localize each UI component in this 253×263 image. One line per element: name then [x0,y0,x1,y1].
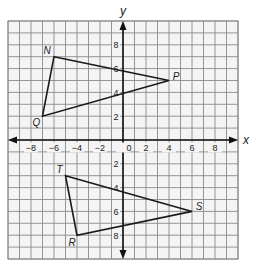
y-tick-label: 2 [113,159,118,169]
x-tick-label: 2 [143,143,148,153]
x-tick-label: −2 [95,143,105,153]
vertex-label-p: P [173,71,180,82]
vertex-label-q: Q [33,117,41,128]
x-tick-label: 0 [126,143,131,153]
vertex-label-s: S [196,201,203,212]
y-tick-label: 6 [113,207,118,217]
y-tick-label: 4 [113,183,118,193]
x-tick-label: 6 [189,143,194,153]
x-tick-label: −6 [49,143,59,153]
x-tick-label: 8 [212,143,217,153]
y-tick-label: 8 [113,40,118,50]
vertex-label-r: R [68,237,75,248]
x-tick-label: −8 [26,143,36,153]
x-tick-label: −4 [72,143,82,153]
y-tick-label: 2 [113,112,118,122]
x-tick-label: 4 [166,143,171,153]
y-tick-label: 8 [113,231,118,241]
y-axis-label: y [119,4,127,18]
coordinate-plane: −8−6−4−20246886422468 NPQTSR x y [0,0,253,263]
x-axis-label: x [242,133,250,147]
vertex-label-n: N [43,45,51,56]
vertex-label-t: T [56,164,63,175]
